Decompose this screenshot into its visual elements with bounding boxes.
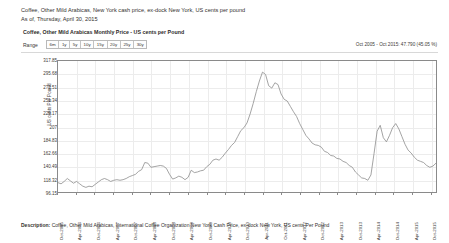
x-tick-mark: [431, 193, 432, 196]
y-tick-label: 273.51: [43, 84, 57, 89]
price-line-series: [58, 61, 436, 192]
page-header: Coffee, Other Mild Arabicas, New York ca…: [21, 6, 431, 24]
x-tick-label: Oct-2014: [395, 222, 400, 240]
x-tick-mark: [207, 193, 208, 196]
x-tick-label: Apr-2014: [376, 222, 381, 240]
range-label: Range: [23, 42, 38, 48]
x-tick-label: Apr-2015: [414, 222, 419, 240]
x-tick-mark: [263, 193, 264, 196]
x-tick-mark: [188, 193, 189, 196]
y-tick-label: 162.66: [43, 151, 57, 156]
range-button-20y[interactable]: 20y: [108, 41, 121, 48]
chart-panel: Coffee, Other Mild Arabicas Monthly Pric…: [21, 29, 438, 219]
x-tick-label: Oct-2015: [432, 222, 437, 240]
y-tick-label: 317.85: [43, 58, 57, 63]
x-tick-mark: [94, 193, 95, 196]
x-tick-mark: [57, 193, 58, 196]
y-tick-label: 295.68: [43, 71, 57, 76]
y-tick-label: 207: [49, 124, 57, 129]
chart-description: Description: Coffee, Other Mild Arabicas…: [21, 222, 329, 228]
x-tick-mark: [375, 193, 376, 196]
y-tick-label: 118.32: [44, 177, 58, 182]
description-label: Description:: [21, 222, 50, 228]
page-asof-date: As of, Thursday, April 30, 2015: [21, 15, 431, 24]
y-tick-label: 96.15: [46, 191, 57, 196]
x-axis-ticks: Oct-2005Apr-2006Oct-2006Apr-2007Oct-2007…: [57, 195, 437, 225]
range-button-6m[interactable]: 6m: [47, 41, 59, 48]
x-tick-mark: [393, 193, 394, 196]
range-selector: Range 6m1y5y10y15y20y25y30y Oct 2005 - O…: [23, 40, 438, 50]
plot-canvas: [57, 60, 437, 193]
x-tick-mark: [319, 193, 320, 196]
x-tick-mark: [169, 193, 170, 196]
x-tick-mark: [150, 193, 151, 196]
range-divider: [21, 52, 438, 53]
y-tick-label: 184.83: [43, 137, 57, 142]
chart-page: Coffee, Other Mild Arabicas, New York ca…: [0, 0, 449, 243]
range-button-25y[interactable]: 25y: [121, 41, 134, 48]
x-tick-label: Oct-2013: [358, 222, 363, 240]
y-tick-label: 251.34: [43, 97, 57, 102]
x-tick-label: Apr-2013: [339, 222, 344, 240]
x-tick-mark: [300, 193, 301, 196]
range-button-15y[interactable]: 15y: [94, 41, 107, 48]
range-button-10y[interactable]: 10y: [81, 41, 94, 48]
range-readout: Oct 2005 - Oct 2015: 47.790 (45.05 %): [356, 42, 437, 47]
page-title: Coffee, Other Mild Arabicas, New York ca…: [21, 6, 431, 15]
range-button-group[interactable]: 6m1y5y10y15y20y25y30y: [46, 40, 147, 49]
description-text: Coffee, Other Mild Arabicas, Internation…: [52, 222, 330, 228]
x-tick-mark: [244, 193, 245, 196]
plot-area: US cents Per Pound 317.85295.68273.51251…: [21, 56, 438, 218]
y-axis-ticks: 317.85295.68273.51251.34229.17207184.831…: [29, 56, 57, 192]
x-tick-mark: [356, 193, 357, 196]
range-button-30y[interactable]: 30y: [134, 41, 146, 48]
range-button-1y[interactable]: 1y: [59, 41, 70, 48]
chart-title: Coffee, Other Mild Arabicas Monthly Pric…: [23, 29, 184, 35]
range-button-5y[interactable]: 5y: [70, 41, 81, 48]
y-tick-label: 140.49: [43, 164, 57, 169]
x-tick-mark: [225, 193, 226, 196]
x-tick-mark: [113, 193, 114, 196]
x-tick-mark: [132, 193, 133, 196]
x-tick-mark: [337, 193, 338, 196]
x-tick-mark: [281, 193, 282, 196]
y-tick-label: 229.17: [43, 111, 57, 116]
x-tick-mark: [412, 193, 413, 196]
x-tick-mark: [76, 193, 77, 196]
